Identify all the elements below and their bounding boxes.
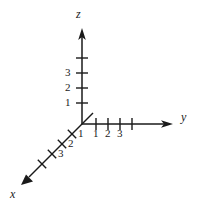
y-tick-label-3: 3	[117, 128, 123, 139]
x-tick-label-2: 2	[68, 138, 74, 149]
y-axis-label: y	[181, 112, 186, 123]
z-axis-label: z	[76, 9, 81, 20]
z-tick-label-3: 3	[65, 67, 71, 78]
x-axis-label: x	[10, 189, 15, 200]
x-axis-arrowhead	[21, 175, 33, 186]
coordinate-axes-figure: z y x 1 2 3 1 2 3 1 2 3	[0, 0, 202, 209]
axes-drawing	[0, 0, 202, 209]
x-tick-label-1: 1	[78, 128, 84, 139]
y-tick-label-2: 2	[105, 128, 111, 139]
z-tick-label-2: 2	[65, 82, 71, 93]
y-tick-label-1: 1	[93, 128, 99, 139]
x-axis-line	[29, 113, 93, 177]
z-axis-group	[76, 28, 88, 124]
x-tick-label-3: 3	[58, 148, 64, 159]
z-tick-label-1: 1	[65, 97, 71, 108]
x-axis-group	[21, 113, 93, 185]
